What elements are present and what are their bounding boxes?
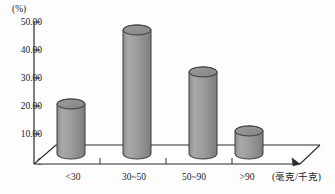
chart-plot-area bbox=[0, 0, 335, 194]
bar-cylinder-3 bbox=[235, 126, 263, 159]
y-axis bbox=[34, 22, 40, 164]
chart-container: (%) 50.00 40.00 30.00 20.00 10.00 0 <30 … bbox=[0, 0, 335, 194]
bar-cylinder-0 bbox=[57, 99, 85, 159]
bar-cylinder-1 bbox=[123, 25, 151, 159]
bar-cylinder-2 bbox=[189, 67, 217, 159]
